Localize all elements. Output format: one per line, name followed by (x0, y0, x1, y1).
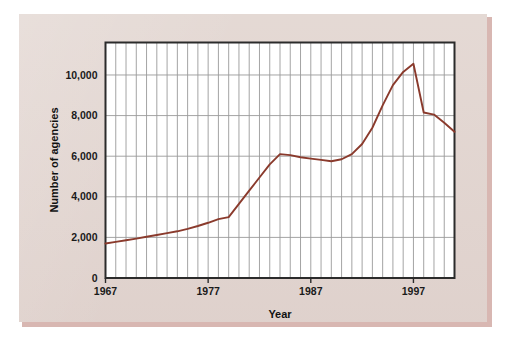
line-chart: 02,0004,0006,0008,00010,000 196719771987… (0, 0, 513, 350)
y-tick-label: 6,000 (71, 150, 97, 162)
x-tick-label: 1967 (94, 285, 118, 297)
y-tick-label: 0 (92, 272, 98, 284)
y-tick-label: 8,000 (71, 109, 97, 121)
figure-root: 02,0004,0006,0008,00010,000 196719771987… (0, 0, 513, 350)
x-tick-label: 1977 (196, 285, 220, 297)
y-axis-title: Number of agencies (48, 107, 60, 212)
x-tick-label: 1987 (299, 285, 323, 297)
x-tick-labels: 1967197719871997 (94, 285, 425, 297)
chart-plot-wrapper: 02,0004,0006,0008,00010,000 196719771987… (0, 0, 513, 350)
x-axis-title: Year (268, 308, 292, 320)
x-tick-label: 1997 (402, 285, 426, 297)
y-tick-label: 2,000 (71, 231, 97, 243)
y-tick-label: 10,000 (65, 69, 97, 81)
y-tick-labels: 02,0004,0006,0008,00010,000 (65, 69, 97, 284)
y-tick-label: 4,000 (71, 190, 97, 202)
